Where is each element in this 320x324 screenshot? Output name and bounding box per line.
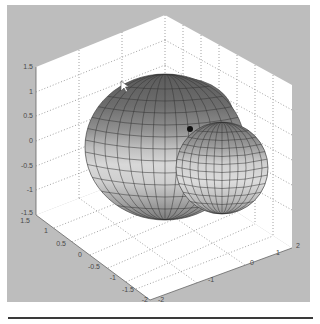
z-axis-ticks: 1.5 1 0.5 0 -0.5 -1 -1.5	[21, 63, 33, 216]
svg-text:1.5: 1.5	[20, 217, 30, 224]
small-sphere	[176, 122, 268, 214]
svg-text:1: 1	[276, 249, 280, 256]
svg-text:-0.5: -0.5	[21, 162, 33, 169]
svg-text:-1: -1	[208, 276, 214, 283]
svg-text:0.5: 0.5	[23, 112, 33, 119]
svg-text:-2: -2	[142, 296, 148, 303]
axes-3d[interactable]: 1.5 1 0.5 0 -0.5 -1 -1.5 1.5 1 0.5 0 -0.…	[0, 0, 320, 324]
svg-text:-2: -2	[158, 296, 164, 303]
svg-text:1: 1	[29, 88, 33, 95]
bottom-divider	[8, 317, 313, 319]
svg-text:-1: -1	[27, 186, 33, 193]
svg-text:-1.5: -1.5	[21, 209, 33, 216]
svg-text:-1.5: -1.5	[122, 286, 134, 293]
svg-text:-1: -1	[110, 274, 116, 281]
svg-text:1.5: 1.5	[23, 63, 33, 70]
svg-text:-0.5: -0.5	[88, 263, 100, 270]
svg-text:1: 1	[44, 227, 48, 234]
svg-text:0: 0	[250, 259, 254, 266]
svg-text:0: 0	[29, 137, 33, 144]
svg-text:0.5: 0.5	[56, 240, 66, 247]
svg-text:2: 2	[296, 242, 300, 249]
svg-text:0: 0	[78, 251, 82, 258]
contact-point-marker	[187, 126, 193, 132]
